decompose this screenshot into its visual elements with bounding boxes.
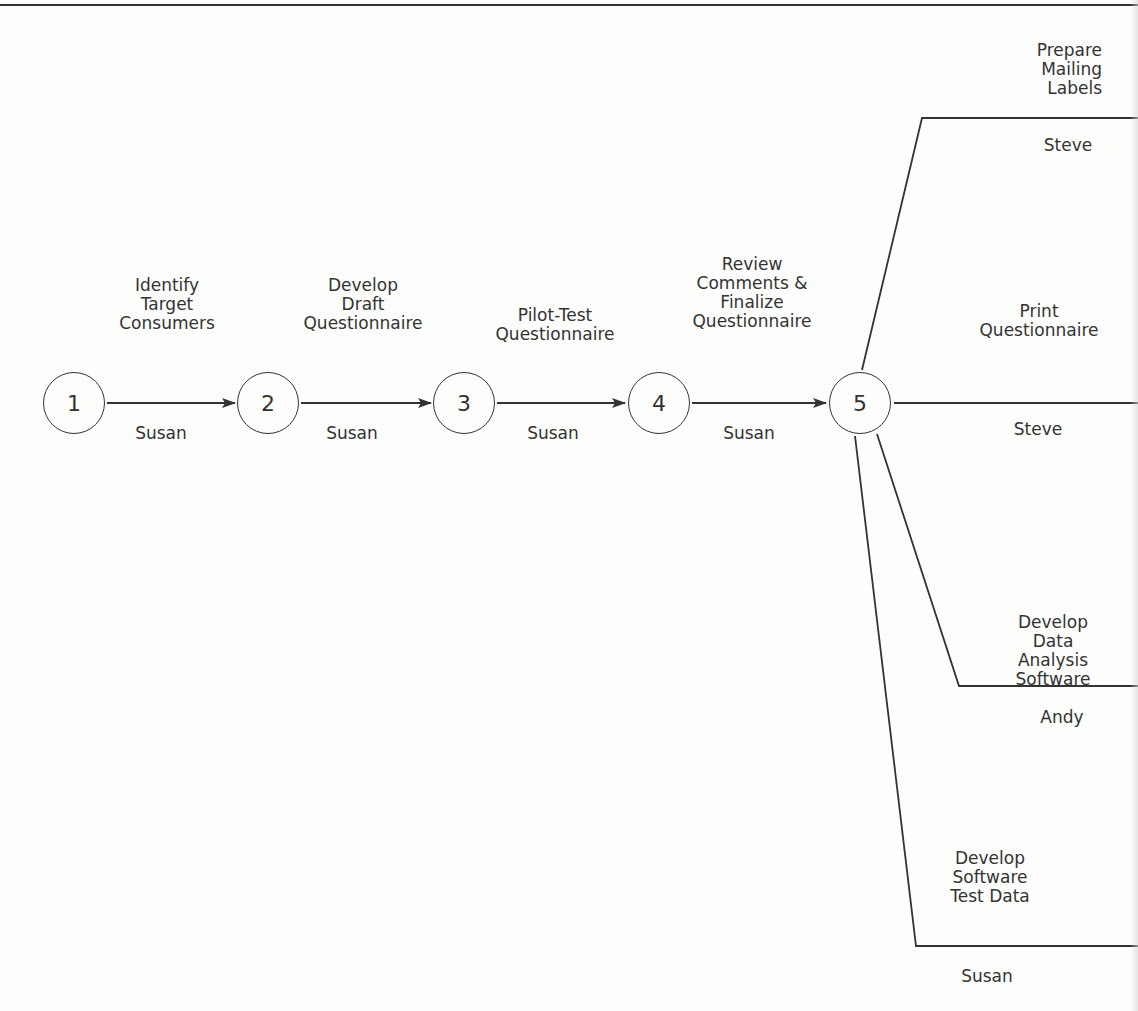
task-label: Develop Data Analysis Software: [1011, 613, 1096, 689]
task-label: Print Questionnaire: [979, 302, 1098, 340]
owner-label: Susan: [961, 967, 1013, 986]
owner-label: Andy: [1040, 708, 1083, 727]
task-label: Develop Draft Questionnaire: [303, 276, 422, 333]
owner-label: Steve: [1014, 420, 1062, 439]
branch-develop-data-analysis-software: [877, 434, 1138, 686]
owner-label: Susan: [723, 424, 775, 443]
node-2: 2: [237, 372, 299, 434]
owner-label: Steve: [1044, 136, 1092, 155]
owner-label: Susan: [135, 424, 187, 443]
task-label: Develop Software Test Data: [950, 849, 1029, 906]
owner-label: Susan: [527, 424, 579, 443]
node-3: 3: [433, 372, 495, 434]
network-diagram: 1 2 3 4 5 Identify Target Consumers Susa…: [0, 0, 1138, 1011]
node-5: 5: [829, 372, 891, 434]
task-label: Prepare Mailing Labels: [1030, 41, 1102, 98]
page-edge-shadow: [1130, 0, 1138, 1011]
task-label: Review Comments & Finalize Questionnaire: [692, 255, 811, 331]
node-4: 4: [628, 372, 690, 434]
owner-label: Susan: [326, 424, 378, 443]
task-label: Pilot-Test Questionnaire: [495, 306, 614, 344]
node-1: 1: [43, 372, 105, 434]
task-label: Identify Target Consumers: [119, 276, 215, 333]
